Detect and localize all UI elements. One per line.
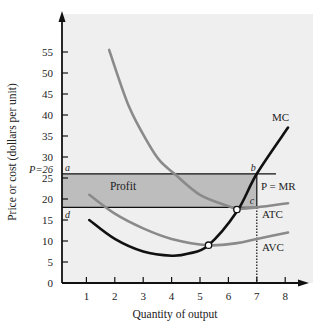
x-tick-label: 8 — [282, 290, 288, 302]
y-tick-label: 45 — [42, 88, 54, 100]
cost-curves-chart: 051015202530354045505512345678 Quantity … — [0, 0, 318, 326]
mc-label: MC — [272, 111, 289, 123]
y-tick-label: 5 — [48, 256, 54, 268]
profit-rectangle — [62, 174, 257, 208]
y-tick-label: 35 — [42, 130, 54, 142]
point-b-label: b — [251, 162, 256, 173]
price-tick-label: P=26 — [28, 164, 54, 175]
price-mr-label: P = MR — [261, 180, 296, 192]
y-tick-label: 10 — [42, 235, 54, 247]
intersection-point-icon — [234, 206, 240, 212]
point-a-label: a — [65, 162, 70, 173]
profit-label: Profit — [110, 180, 137, 192]
y-axis-label: Price or cost (dollars per unit) — [6, 83, 19, 221]
x-tick-label: 6 — [226, 290, 232, 302]
x-tick-label: 1 — [84, 290, 90, 302]
x-tick-label: 2 — [112, 290, 118, 302]
x-axis-label: Quantity of output — [133, 308, 219, 321]
atc-label: ATC — [262, 208, 283, 220]
x-tick-label: 4 — [169, 290, 175, 302]
y-tick-label: 20 — [42, 193, 54, 205]
point-c-label: c — [250, 195, 255, 206]
intersection-point-icon — [205, 242, 211, 248]
y-tick-label: 15 — [42, 214, 54, 226]
y-tick-label: 0 — [48, 277, 54, 289]
y-tick-label: 40 — [42, 109, 54, 121]
y-tick-label: 50 — [42, 67, 54, 79]
x-tick-label: 5 — [197, 290, 203, 302]
profit-area — [62, 174, 257, 208]
avc-label: AVC — [262, 241, 284, 253]
y-tick-label: 55 — [42, 46, 54, 58]
x-tick-label: 7 — [254, 290, 260, 302]
x-tick-label: 3 — [140, 290, 146, 302]
y-tick-label: 30 — [42, 151, 54, 163]
